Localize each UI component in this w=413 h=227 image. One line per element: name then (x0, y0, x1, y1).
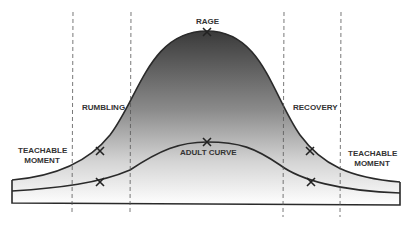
curve-diagram (0, 0, 413, 227)
label-teachable-moment-left: TEACHABLE MOMENT (18, 146, 66, 166)
bell-curve-fill (12, 31, 400, 205)
label-line: TEACHABLE (18, 146, 66, 156)
label-line: MOMENT (348, 159, 396, 169)
label-line: TEACHABLE (348, 149, 396, 159)
label-teachable-moment-right: TEACHABLE MOMENT (348, 149, 396, 169)
label-recovery: RECOVERY (293, 103, 338, 113)
label-line: MOMENT (18, 156, 66, 166)
label-rage: RAGE (196, 17, 219, 27)
label-adult-curve: ADULT CURVE (180, 148, 237, 158)
label-rumbling: RUMBLING (82, 103, 125, 113)
